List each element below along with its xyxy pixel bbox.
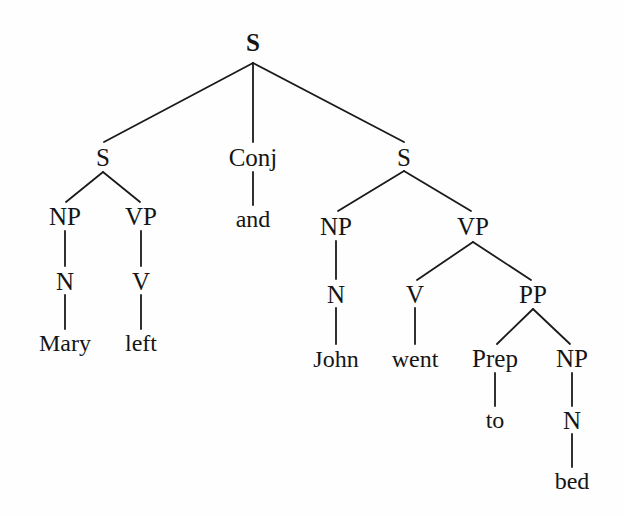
tree-leaf-word-and: and: [236, 207, 271, 231]
tree-node-label-np-bed: NP: [556, 346, 588, 371]
tree-node-label-v-went: V: [406, 282, 424, 307]
tree-node-label-np-left: NP: [49, 204, 81, 229]
tree-leaf-word-went: went: [392, 347, 439, 371]
tree-edge-PP-to-NP-bed: [533, 309, 570, 344]
tree-edge-VP-right-to-V-went: [417, 242, 473, 280]
tree-node-label-n-bed: N: [563, 408, 581, 433]
tree-node-label-s-root: S: [246, 30, 260, 55]
syntax-tree-diagram: SSConjSNPVPandNPVPNVNVPPMaryleftJohnwent…: [0, 0, 624, 516]
tree-node-label-pp: PP: [519, 282, 547, 307]
tree-edges-layer: [0, 0, 624, 516]
tree-edge-S-right-to-VP-right: [404, 171, 471, 211]
tree-node-label-np-right: NP: [320, 214, 352, 239]
tree-node-label-vp-right: VP: [457, 214, 489, 239]
tree-leaf-word-to: to: [486, 408, 505, 432]
tree-edge-VP-right-to-PP: [473, 242, 531, 280]
tree-node-label-v-left: V: [132, 269, 150, 294]
tree-leaf-word-bed: bed: [555, 469, 590, 493]
tree-edge-PP-to-Prep: [497, 309, 533, 344]
tree-node-label-vp-left: VP: [125, 204, 157, 229]
tree-edge-S-root-to-S-left: [104, 63, 253, 142]
tree-leaf-word-mary: Mary: [39, 331, 91, 355]
tree-node-label-n-mary: N: [56, 269, 74, 294]
tree-node-label-prep: Prep: [472, 346, 518, 371]
tree-edge-S-left-to-NP-left: [66, 172, 103, 202]
tree-node-label-n-john: N: [327, 282, 345, 307]
tree-node-label-conj: Conj: [229, 145, 278, 170]
tree-edge-S-right-to-NP-right: [338, 171, 404, 211]
tree-edge-S-root-to-S-right: [253, 63, 404, 142]
tree-leaf-word-john: John: [313, 347, 358, 371]
tree-leaf-word-left: left: [125, 331, 157, 355]
tree-edge-S-left-to-VP-left: [103, 172, 140, 202]
tree-node-label-s-left: S: [96, 145, 110, 170]
tree-node-label-s-right: S: [397, 145, 411, 170]
